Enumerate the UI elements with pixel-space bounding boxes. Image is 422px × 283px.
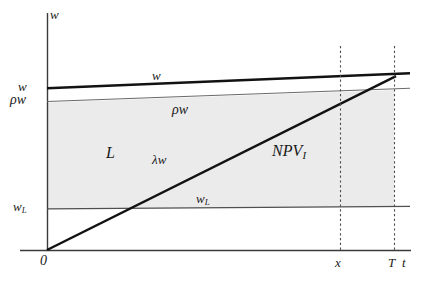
curve-label-rho-w: ρw (172, 103, 188, 117)
origin-label: 0 (40, 254, 47, 268)
shaded-region-L-NPV (47, 90, 394, 209)
area-label-NPV-base: NPV (272, 142, 302, 159)
x-axis-label: t (402, 256, 406, 269)
y-tick-label-w-L: wL (13, 200, 27, 215)
curve-label-w-L-base: w (196, 191, 205, 206)
area-label-NPV: NPVI (272, 143, 306, 161)
curve-label-lambda-w: λw (152, 153, 166, 166)
y-tick-label-rho-w: ρw (10, 93, 26, 107)
curve-label-w: w (152, 69, 161, 82)
area-label-NPV-subscript: I (302, 149, 306, 161)
figure-canvas: w t 0 w ρw wL x T w ρw λw wL L NPVI (0, 0, 422, 283)
area-label-L: L (106, 145, 115, 161)
y-tick-label-w-L-base: w (13, 199, 22, 214)
x-tick-label-T: T (388, 256, 395, 269)
w-line (47, 73, 410, 88)
y-tick-label-w-L-subscript: L (22, 205, 27, 215)
curve-label-w-L: wL (196, 192, 210, 207)
diagram-svg (0, 0, 422, 283)
x-tick-label-x: x (335, 256, 341, 269)
curve-label-w-L-subscript: L (205, 197, 210, 207)
y-axis-label: w (50, 8, 59, 21)
